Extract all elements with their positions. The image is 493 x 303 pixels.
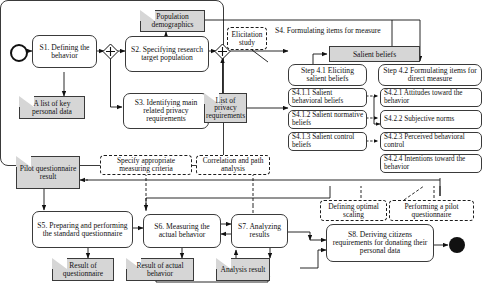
doc-list-privacy-requirements: List of privacy requirements xyxy=(204,93,247,123)
node-s3[interactable]: S3. Identifying main related privacy req… xyxy=(123,93,209,129)
doc-result-of-actual-behavior: Result of actual behavior xyxy=(126,258,194,281)
diagram-canvas: S4. Formulating items for measure Salien… xyxy=(0,0,493,303)
node-s4-2-3[interactable]: S4.2.3 Perceived behavioral control xyxy=(380,132,482,151)
group-s4-title: S4. Formulating items for measure xyxy=(275,26,381,35)
node-s4-2-2[interactable]: S4.2.2 Subjective norms xyxy=(380,110,482,129)
node-s4-1-1[interactable]: S4.1.1 Salient behavioral beliefs xyxy=(288,88,367,107)
step-4-1[interactable]: Step 4.1 Eliciting salient beliefs xyxy=(288,64,367,86)
doc-result-of-questionnaire-label: Result of questionnaire xyxy=(53,259,113,280)
note-elicitation-study[interactable]: Elicitation study xyxy=(227,27,267,50)
note-defining-optimal-scaling[interactable]: Defining optimal scaling xyxy=(320,200,387,221)
node-s8[interactable]: S8. Deriving citizens requirements for d… xyxy=(326,224,434,262)
doc-result-of-actual-behavior-label: Result of actual behavior xyxy=(127,259,193,280)
doc-salient-beliefs-label: Salient beliefs xyxy=(330,47,419,61)
end-circle xyxy=(449,237,465,253)
gateway-diamond-2 xyxy=(214,43,231,60)
node-s7[interactable]: S7. Analyzing results xyxy=(231,214,288,248)
node-s4-2-1[interactable]: S4.2.1 Attitudes toward the behavior xyxy=(380,88,482,107)
doc-population-demographics-label: Population demographics xyxy=(141,11,204,31)
node-s4-1-2[interactable]: S4.1.2 Salient normative beliefs xyxy=(288,110,367,129)
gateway-diamond-1 xyxy=(102,43,119,60)
node-s6[interactable]: S6. Measuring the actual behavior xyxy=(143,214,221,248)
doc-list-privacy-requirements-label: List of privacy requirements xyxy=(205,94,246,122)
doc-pilot-questionnaire-result-label: Pilot questionnaire result xyxy=(17,157,79,188)
doc-list-key-personal-data: A list of key personal data xyxy=(19,96,85,119)
note-correlation-path-analysis[interactable]: Correlation and path analysis xyxy=(196,155,270,175)
doc-salient-beliefs: Salient beliefs xyxy=(329,46,420,62)
step-4-2[interactable]: Step 4.2 Formulating items for direct me… xyxy=(378,64,482,86)
node-s2[interactable]: S2. Specifying research target populatio… xyxy=(125,36,209,72)
note-performing-pilot-questionnaire[interactable]: Performing a pilot questionnaire xyxy=(389,200,474,221)
start-circle xyxy=(10,44,28,62)
note-specify-measuring-criteria[interactable]: Specify appropriate measuring criteria xyxy=(100,155,192,175)
doc-result-of-questionnaire: Result of questionnaire xyxy=(52,258,114,281)
doc-analysis-result: Analysis result xyxy=(216,258,270,281)
node-s4-2-4[interactable]: S4.2.4 Intentions toward the behavior xyxy=(380,154,482,173)
doc-population-demographics: Population demographics xyxy=(140,10,205,32)
doc-analysis-result-label: Analysis result xyxy=(217,259,269,280)
node-s4-1-3[interactable]: S4.1.3 Salient control beliefs xyxy=(288,132,367,151)
doc-list-key-personal-data-label: A list of key personal data xyxy=(20,97,84,118)
doc-pilot-questionnaire-result: Pilot questionnaire result xyxy=(16,156,80,189)
node-s1[interactable]: S1. Defining the behavior xyxy=(32,35,97,68)
node-s5[interactable]: S5. Preparing and performing the standar… xyxy=(32,211,133,248)
